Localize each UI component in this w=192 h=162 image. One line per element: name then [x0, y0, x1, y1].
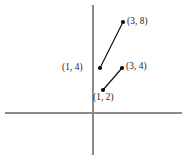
point-label-3-8: (3, 8)	[127, 17, 148, 26]
point-label-3-4: (3, 4)	[126, 62, 147, 71]
data-point-1-4	[98, 66, 102, 70]
data-point-3-8	[121, 20, 125, 24]
data-point-3-4	[120, 66, 124, 70]
point-label-1-2: (1, 2)	[93, 93, 114, 102]
segment-1-4-to-3-8	[100, 22, 123, 68]
coordinate-plane-figure: (1, 4) (3, 8) (3, 4) (1, 2)	[0, 0, 192, 162]
plot-canvas	[0, 0, 192, 162]
point-label-1-4: (1, 4)	[62, 63, 83, 72]
segment-1-2-to-3-4	[103, 68, 122, 90]
